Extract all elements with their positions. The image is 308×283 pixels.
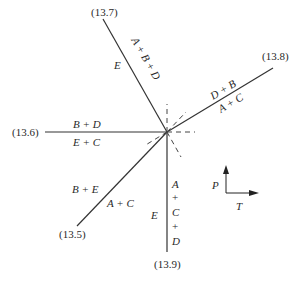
- stack-plus-2: +: [172, 220, 178, 232]
- pt-axes-indicator: P T: [211, 165, 259, 212]
- label-13-7: (13.7): [91, 6, 118, 19]
- assemblage-13-6-a: B + D: [73, 118, 101, 130]
- label-13-6: (13.6): [12, 126, 39, 139]
- assemblage-13-7-b: E: [113, 59, 121, 71]
- metastable-ext-13-7: [167, 132, 181, 157]
- assemblage-13-9-e: E: [150, 209, 158, 221]
- stack-a: A: [171, 178, 179, 190]
- reaction-line-13-8: [167, 68, 273, 132]
- p-arrow-icon: [223, 165, 229, 174]
- assemblage-13-6-b: E + C: [72, 136, 101, 148]
- stack-c: C: [172, 206, 180, 218]
- stack-d: D: [171, 235, 180, 247]
- assemblage-13-5-a: B + E: [72, 183, 99, 195]
- assemblage-13-5-b: A + C: [106, 197, 134, 209]
- label-13-9: (13.9): [154, 258, 181, 271]
- p-axis-label: P: [211, 179, 219, 191]
- label-13-5: (13.5): [59, 228, 86, 241]
- phase-diagram: (13.7) (13.8) (13.6) (13.5) (13.9) A + B…: [0, 0, 308, 283]
- stack-plus-1: +: [172, 191, 178, 203]
- t-arrow-icon: [249, 190, 259, 196]
- label-13-8: (13.8): [262, 50, 289, 63]
- t-axis-label: T: [236, 200, 243, 212]
